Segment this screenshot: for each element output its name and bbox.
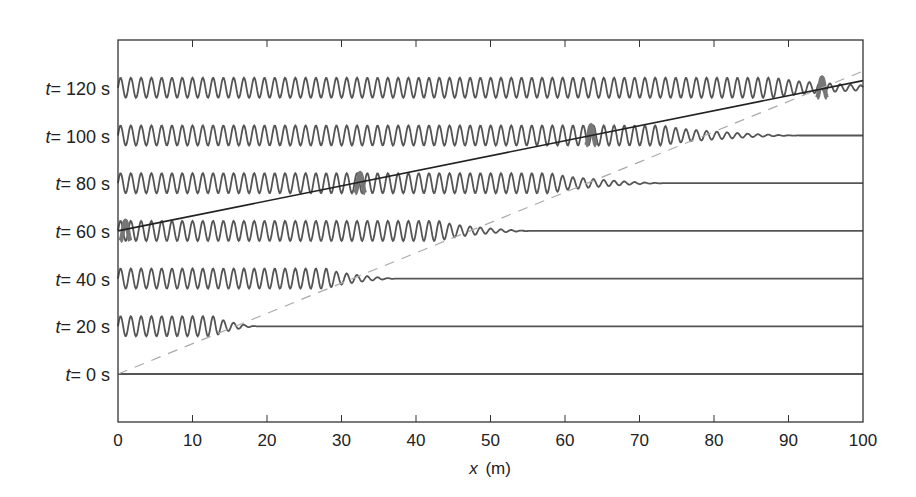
x-tick-label: 40 xyxy=(407,431,426,450)
wave-rows xyxy=(118,78,863,374)
crest-trajectory-line xyxy=(118,81,863,231)
row-label: t= 60 s xyxy=(55,222,110,242)
wave-trace xyxy=(118,316,863,336)
wave-trace xyxy=(118,78,863,98)
row-label: t= 20 s xyxy=(55,317,110,337)
wave-propagation-chart: 0102030405060708090100 t= 0 st= 20 st= 4… xyxy=(0,0,916,497)
row-labels: t= 0 st= 20 st= 40 st= 60 st= 80 st= 100… xyxy=(45,79,110,385)
x-tick-label: 30 xyxy=(332,431,351,450)
x-tick-label: 10 xyxy=(183,431,202,450)
x-tick-label: 20 xyxy=(258,431,277,450)
x-tick-label: 0 xyxy=(113,431,122,450)
x-axis-label: x (m) xyxy=(468,459,511,478)
row-label: t= 100 s xyxy=(45,127,110,147)
x-tick-label: 60 xyxy=(556,431,575,450)
wave-trace xyxy=(118,269,863,289)
wave-trace xyxy=(118,126,863,146)
wave-trace xyxy=(118,221,863,241)
row-label: t= 40 s xyxy=(55,270,110,290)
x-tick-label: 90 xyxy=(779,431,798,450)
x-tick-label: 80 xyxy=(705,431,724,450)
x-tick-label: 50 xyxy=(481,431,500,450)
row-label: t= 120 s xyxy=(45,79,110,99)
x-tick-label: 70 xyxy=(630,431,649,450)
row-label: t= 0 s xyxy=(65,365,110,385)
wave-trace xyxy=(118,173,863,193)
row-label: t= 80 s xyxy=(55,174,110,194)
x-tick-label: 100 xyxy=(849,431,877,450)
